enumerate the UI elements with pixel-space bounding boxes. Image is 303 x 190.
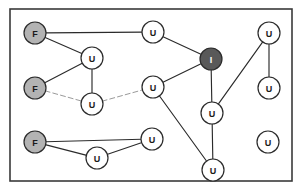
graph-node-unknown[interactable]: U bbox=[202, 159, 224, 181]
graph-node-unknown[interactable]: U bbox=[142, 76, 164, 98]
node-circle bbox=[24, 22, 46, 44]
graph-diagram: FUUUIFUUUUFUUUU bbox=[0, 0, 303, 190]
graph-node-unknown[interactable]: U bbox=[141, 128, 163, 150]
graph-node-unknown[interactable]: U bbox=[81, 47, 103, 69]
graph-node-unknown[interactable]: U bbox=[81, 93, 103, 115]
graph-node-unknown[interactable]: U bbox=[142, 21, 164, 43]
node-circle bbox=[258, 22, 280, 44]
graph-node-unknown[interactable]: U bbox=[86, 147, 108, 169]
node-circle bbox=[200, 48, 222, 70]
node-circle bbox=[202, 159, 224, 181]
graph-node-failed[interactable]: F bbox=[24, 22, 46, 44]
graph-node-unknown[interactable]: U bbox=[258, 22, 280, 44]
node-circle bbox=[24, 77, 46, 99]
graph-node-unknown[interactable]: U bbox=[201, 102, 223, 124]
graph-node-infected[interactable]: I bbox=[200, 48, 222, 70]
graph-edge bbox=[212, 123, 213, 159]
graph-canvas: FUUUIFUUUUFUUUU bbox=[0, 0, 303, 190]
graph-edge bbox=[211, 69, 212, 102]
graph-node-unknown[interactable]: U bbox=[258, 77, 280, 99]
node-circle bbox=[257, 131, 279, 153]
graph-node-unknown[interactable]: U bbox=[257, 131, 279, 153]
node-circle bbox=[81, 47, 103, 69]
node-circle bbox=[142, 21, 164, 43]
node-circle bbox=[24, 131, 46, 153]
node-circle bbox=[86, 147, 108, 169]
node-circle bbox=[258, 77, 280, 99]
graph-node-failed[interactable]: F bbox=[24, 131, 46, 153]
node-circle bbox=[142, 76, 164, 98]
node-circle bbox=[81, 93, 103, 115]
node-circle bbox=[201, 102, 223, 124]
node-circle bbox=[141, 128, 163, 150]
graph-node-failed[interactable]: F bbox=[24, 77, 46, 99]
